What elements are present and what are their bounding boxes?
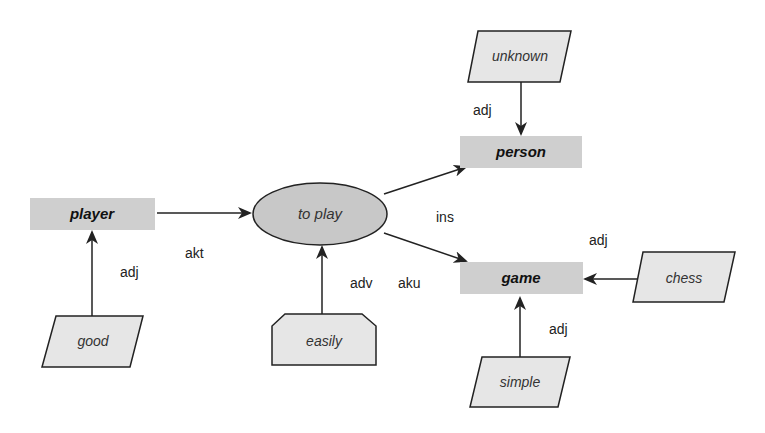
concept-person[interactable]: person	[460, 136, 582, 168]
concept-player[interactable]: player	[30, 198, 155, 230]
relation-ins-label: ins	[436, 209, 454, 225]
attribute-simple[interactable]: simple	[470, 357, 570, 407]
attribute-chess-label: chess	[666, 270, 703, 286]
concept-game[interactable]: game	[460, 262, 583, 294]
attribute-unknown-label: unknown	[492, 48, 548, 64]
relation-adj-simple-label: adj	[549, 321, 568, 337]
relation-adj-chess-label: adj	[589, 232, 608, 248]
attribute-good[interactable]: good	[42, 316, 143, 367]
edge-to-play-game	[384, 233, 466, 261]
attribute-simple-label: simple	[500, 374, 541, 390]
semantic-network-diagram: player person game to play good unknown …	[0, 0, 765, 433]
attribute-unknown[interactable]: unknown	[468, 31, 571, 82]
action-to-play[interactable]: to play	[253, 183, 387, 245]
attribute-good-label: good	[77, 333, 109, 349]
relation-aku-label: aku	[398, 275, 421, 291]
relation-adj-person-label: adj	[473, 102, 492, 118]
edge-to-play-person	[384, 167, 466, 194]
concept-player-label: player	[69, 205, 115, 222]
relation-akt-label: akt	[185, 245, 204, 261]
relation-adv-label: adv	[350, 275, 373, 291]
attribute-easily-label: easily	[306, 333, 343, 349]
attribute-chess[interactable]: chess	[633, 252, 735, 302]
attribute-easily[interactable]: easily	[272, 314, 376, 365]
action-to-play-label: to play	[298, 205, 344, 222]
concept-game-label: game	[500, 269, 540, 286]
relation-adj-player-label: adj	[120, 264, 139, 280]
concept-person-label: person	[495, 143, 546, 160]
